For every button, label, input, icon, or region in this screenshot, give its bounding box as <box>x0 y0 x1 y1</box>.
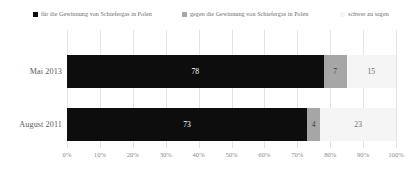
x-axis-tick-label: 80% <box>324 152 336 159</box>
legend-swatch-black-icon <box>33 12 38 17</box>
bar-value-label: 15 <box>367 68 375 76</box>
bar-segment: 73 <box>67 108 307 141</box>
bar-segment: 7 <box>324 55 347 88</box>
table-row: 73423 <box>67 108 396 141</box>
x-axis-tick-label: 70% <box>291 152 303 159</box>
x-axis-tick-label: 0% <box>63 152 72 159</box>
x-axis-tick-label: 30% <box>160 152 172 159</box>
bar-value-label: 73 <box>183 121 191 129</box>
legend-label-fuer: für die Gewinnung von Schiefergas in Pol… <box>41 11 152 17</box>
legend-swatch-white-icon <box>340 12 345 17</box>
legend-label-schwer-zu-sagen: schwer zu sagen <box>348 11 389 17</box>
category-label-mai-2013: Mai 2013 <box>0 67 62 76</box>
legend-item-gegen[interactable]: gegen die Gewinnung von Schiefergas in P… <box>182 7 308 21</box>
bar-value-label: 4 <box>312 121 316 129</box>
bar-value-label: 78 <box>191 68 199 76</box>
x-axis-tick-label: 10% <box>94 152 106 159</box>
gridline <box>396 30 397 148</box>
legend-item-fuer[interactable]: für die Gewinnung von Schiefergas in Pol… <box>33 7 152 21</box>
legend-item-schwer-zu-sagen[interactable]: schwer zu sagen <box>340 7 389 21</box>
stacked-bar-chart: für die Gewinnung von Schiefergas in Pol… <box>0 0 413 171</box>
legend-swatch-gray-icon <box>182 12 187 17</box>
x-axis-tick-label: 50% <box>225 152 237 159</box>
table-row: 78715 <box>67 55 396 88</box>
bar-value-label: 7 <box>333 68 337 76</box>
bar-segment: 4 <box>307 108 320 141</box>
x-axis-tick-label: 60% <box>258 152 270 159</box>
x-axis-tick-label: 40% <box>193 152 205 159</box>
plot-area: 78715 73423 <box>67 30 396 148</box>
bar-segment: 23 <box>320 108 396 141</box>
bar-segment: 15 <box>347 55 396 88</box>
chart-legend: für die Gewinnung von Schiefergas in Pol… <box>0 7 413 21</box>
bar-value-label: 23 <box>354 121 362 129</box>
x-axis-tick-label: 20% <box>127 152 139 159</box>
x-axis-tick-label: 90% <box>357 152 369 159</box>
category-label-august-2011: August 2011 <box>0 120 62 129</box>
legend-label-gegen: gegen die Gewinnung von Schiefergas in P… <box>190 11 308 17</box>
bar-segment: 78 <box>67 55 324 88</box>
x-axis-tick-label: 100% <box>388 152 403 159</box>
x-axis: 0%10%20%30%40%50%60%70%80%90%100% <box>67 152 396 164</box>
